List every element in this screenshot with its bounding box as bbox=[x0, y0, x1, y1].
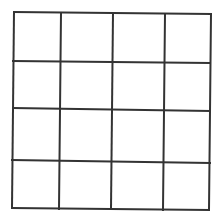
grid-diagram bbox=[0, 0, 222, 220]
